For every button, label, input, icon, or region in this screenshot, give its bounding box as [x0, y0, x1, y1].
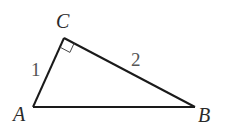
side-cb	[64, 38, 195, 107]
side-length-cb: 2	[131, 49, 141, 70]
vertex-label-a: A	[11, 103, 26, 125]
side-length-ac: 1	[31, 59, 41, 80]
vertex-label-c: C	[56, 10, 70, 32]
triangle-diagram: C A B 1 2	[0, 0, 227, 134]
vertex-label-b: B	[198, 104, 210, 126]
